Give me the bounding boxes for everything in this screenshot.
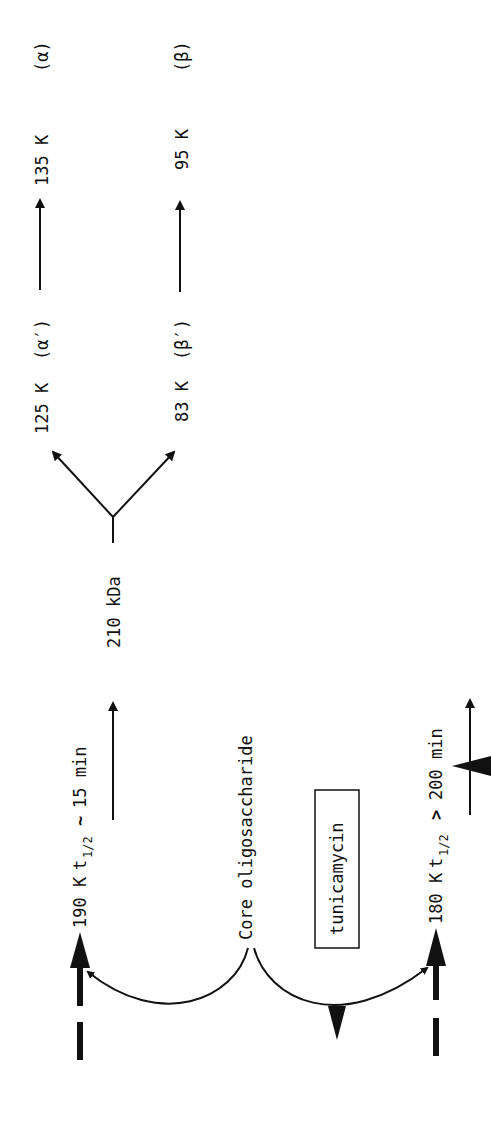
- curve-to-180k: [254, 948, 427, 1005]
- label-t-sub: 1/2: [81, 836, 95, 858]
- precursor-180k-pathway: 180 K t 1/2 > 200 min: [426, 700, 491, 1056]
- tunicamycin-box: tunicamycin: [315, 790, 359, 948]
- label-approx: ~: [70, 816, 90, 826]
- label-125k: 125 K: [32, 382, 52, 434]
- label-core-oligosaccharide: Core oligosaccharide: [236, 735, 256, 940]
- core-oligosaccharide: Core oligosaccharide: [88, 735, 427, 1040]
- label-beta: (β): [172, 41, 192, 72]
- inhibition-arrowhead-icon: [328, 1006, 346, 1040]
- label-200min: 200 min: [426, 728, 446, 800]
- thick-arrowhead-icon: [70, 932, 90, 968]
- label-t-half: t: [426, 858, 446, 868]
- label-180k: 180 K: [426, 872, 446, 924]
- split-arrow-beta-prime: [113, 452, 174, 517]
- alpha-chain-pathway: 125 K (α′) 135 K (α): [32, 41, 52, 434]
- split-arrow-alpha-prime: [53, 452, 113, 517]
- beta-chain-pathway: 83 K (β′) 95 K (β): [172, 41, 192, 422]
- label-83k: 83 K: [172, 380, 192, 422]
- label-tunicamycin: tunicamycin: [327, 822, 347, 935]
- label-15min: 15 min: [70, 747, 90, 808]
- label-t-sub: 1/2: [437, 834, 451, 856]
- precursor-190k-pathway: 190 K t 1/2 ~ 15 min: [70, 703, 113, 1060]
- label-beta-prime: (β′): [172, 319, 192, 360]
- label-95k: 95 K: [172, 128, 192, 170]
- intermediate-210k: 210 kDa: [53, 452, 174, 648]
- label-135k: 135 K: [32, 134, 52, 186]
- label-t-half: t: [70, 860, 90, 870]
- label-greater-than: >: [426, 810, 446, 820]
- label-190k: 190 K: [70, 876, 90, 928]
- label-alpha-prime: (α′): [32, 319, 52, 360]
- label-210kda: 210 kDa: [104, 576, 124, 648]
- curve-to-190k: [88, 948, 248, 1004]
- biosynthesis-diagram: 190 K t 1/2 ~ 15 min 210 kDa 125 K (α′) …: [0, 0, 491, 1126]
- label-alpha: (α): [32, 41, 52, 72]
- thick-arrowhead-icon: [426, 928, 446, 966]
- block-arrowhead-icon: [452, 756, 491, 776]
